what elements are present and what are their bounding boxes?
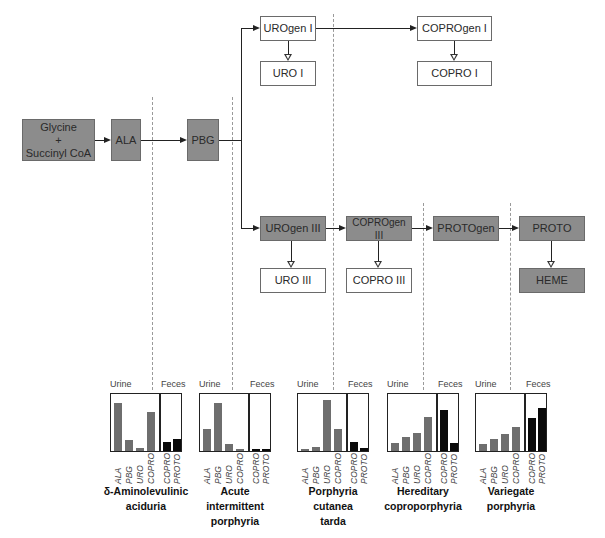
connector-protogen-proto — [499, 228, 513, 229]
feces-label: Feces — [526, 379, 551, 389]
node-coprogen-3: COPROgen III — [346, 216, 412, 241]
node-label: COPRO I — [431, 67, 477, 80]
caption-line: Acute — [179, 484, 291, 499]
bar-urine-ala — [479, 444, 487, 451]
dotted-separator-5 — [510, 203, 511, 390]
x-axis-label: PBG — [124, 466, 134, 484]
x-axis-label: COPRO — [527, 453, 537, 484]
node-heme: HEME — [519, 268, 585, 293]
open-arrowhead-icon — [284, 54, 292, 61]
arrowhead-icon — [253, 225, 260, 231]
x-axis-label: PROTO — [359, 454, 369, 484]
urine-label: Urine — [110, 379, 132, 389]
x-axis-label: PBG — [489, 466, 499, 484]
node-proto: PROTO — [519, 216, 585, 241]
x-axis-label: ALA — [300, 468, 310, 484]
arrowhead-icon — [180, 137, 187, 143]
x-axis-label: COPRO — [423, 453, 433, 484]
caption-line: porphyria — [455, 499, 567, 514]
node-label: UROgen III — [265, 222, 320, 235]
x-axis-label: PROTO — [172, 454, 182, 484]
bar-urine-copro — [512, 427, 520, 451]
node-ala: ALA — [111, 119, 141, 161]
bar-urine-pbg — [490, 439, 498, 451]
x-axis-label: COPRO — [439, 453, 449, 484]
node-label: Succinyl CoA — [26, 147, 91, 160]
bar-urine-pbg — [402, 437, 410, 451]
chart-caption: Acuteintermittentporphyria — [179, 484, 291, 529]
node-label: PROTOgen — [437, 222, 494, 235]
x-axis-label: COPRO — [146, 453, 156, 484]
bar-urine-copro — [236, 449, 244, 451]
x-axis-label: PROTO — [261, 454, 271, 484]
dotted-separator-4 — [423, 203, 424, 390]
bar-urine-copro — [334, 429, 342, 451]
urine-feces-divider — [436, 393, 438, 452]
x-axis-label: PBG — [213, 466, 223, 484]
urine-feces-divider — [346, 393, 348, 452]
bar-feces-copro — [528, 418, 536, 451]
node-label: URO III — [275, 274, 312, 287]
connector-urogen1-coprogen1 — [316, 28, 411, 29]
arrowhead-icon — [426, 225, 433, 231]
connector-urogen1-uro1 — [288, 41, 289, 54]
connector-proto-heme — [551, 241, 552, 261]
x-axis-label: COPRO — [349, 453, 359, 484]
x-axis-label: ALA — [478, 468, 488, 484]
bar-urine-uro — [501, 434, 509, 451]
caption-line: Variegate — [455, 484, 567, 499]
chart-frame — [297, 393, 369, 452]
node-label: + — [55, 134, 61, 147]
x-axis-label: ALA — [113, 468, 123, 484]
caption-line: tarda — [277, 514, 389, 529]
bar-feces-proto — [262, 449, 270, 451]
bar-urine-ala — [114, 403, 122, 451]
node-label: ALA — [116, 134, 137, 147]
bar-urine-copro — [424, 417, 432, 451]
x-axis-label: COPRO — [162, 453, 172, 484]
node-label: COPROgen I — [422, 22, 487, 35]
feces-label: Feces — [161, 379, 186, 389]
urine-label: Urine — [297, 379, 319, 389]
node-pbg: PBG — [187, 119, 219, 161]
x-axis-label: PROTO — [537, 454, 547, 484]
x-axis-label: ALA — [202, 468, 212, 484]
node-label: Glycine — [40, 121, 77, 134]
bar-urine-ala — [203, 429, 211, 451]
x-axis-label: PBG — [401, 466, 411, 484]
x-axis-label: URO — [500, 465, 510, 484]
chart-caption: Variegateporphyria — [455, 484, 567, 514]
bar-urine-uro — [323, 400, 331, 451]
feces-label: Feces — [438, 379, 463, 389]
bar-urine-uro — [136, 448, 144, 451]
connector-coprogen1-copro1 — [454, 41, 455, 54]
branch-vertical-line — [241, 28, 242, 229]
caption-line: porphyria — [179, 514, 291, 529]
urine-label: Urine — [475, 379, 497, 389]
x-axis-label: PBG — [311, 466, 321, 484]
node-label: HEME — [536, 274, 568, 287]
bar-feces-copro — [252, 449, 260, 451]
bar-urine-pbg — [125, 440, 133, 451]
x-axis-label: URO — [224, 465, 234, 484]
x-axis-label: COPRO — [251, 453, 261, 484]
bar-urine-uro — [413, 433, 421, 451]
bar-feces-proto — [360, 448, 368, 451]
connector-pbg-branch — [219, 140, 241, 141]
caption-line: intermittent — [179, 499, 291, 514]
urine-label: Urine — [387, 379, 409, 389]
node-copro-1: COPRO I — [417, 61, 492, 86]
x-axis-label: COPRO — [333, 453, 343, 484]
urine-feces-divider — [524, 393, 526, 452]
feces-label: Feces — [348, 379, 373, 389]
bar-feces-proto — [450, 443, 458, 451]
open-arrowhead-icon — [547, 261, 555, 268]
arrowhead-icon — [253, 25, 260, 31]
x-axis-label: URO — [412, 465, 422, 484]
node-uro-1: URO I — [260, 61, 316, 86]
open-arrowhead-icon — [374, 261, 382, 268]
x-axis-label: URO — [135, 465, 145, 484]
arrowhead-icon — [339, 225, 346, 231]
x-axis-label: COPRO — [235, 453, 245, 484]
node-protogen: PROTOgen — [433, 216, 499, 241]
